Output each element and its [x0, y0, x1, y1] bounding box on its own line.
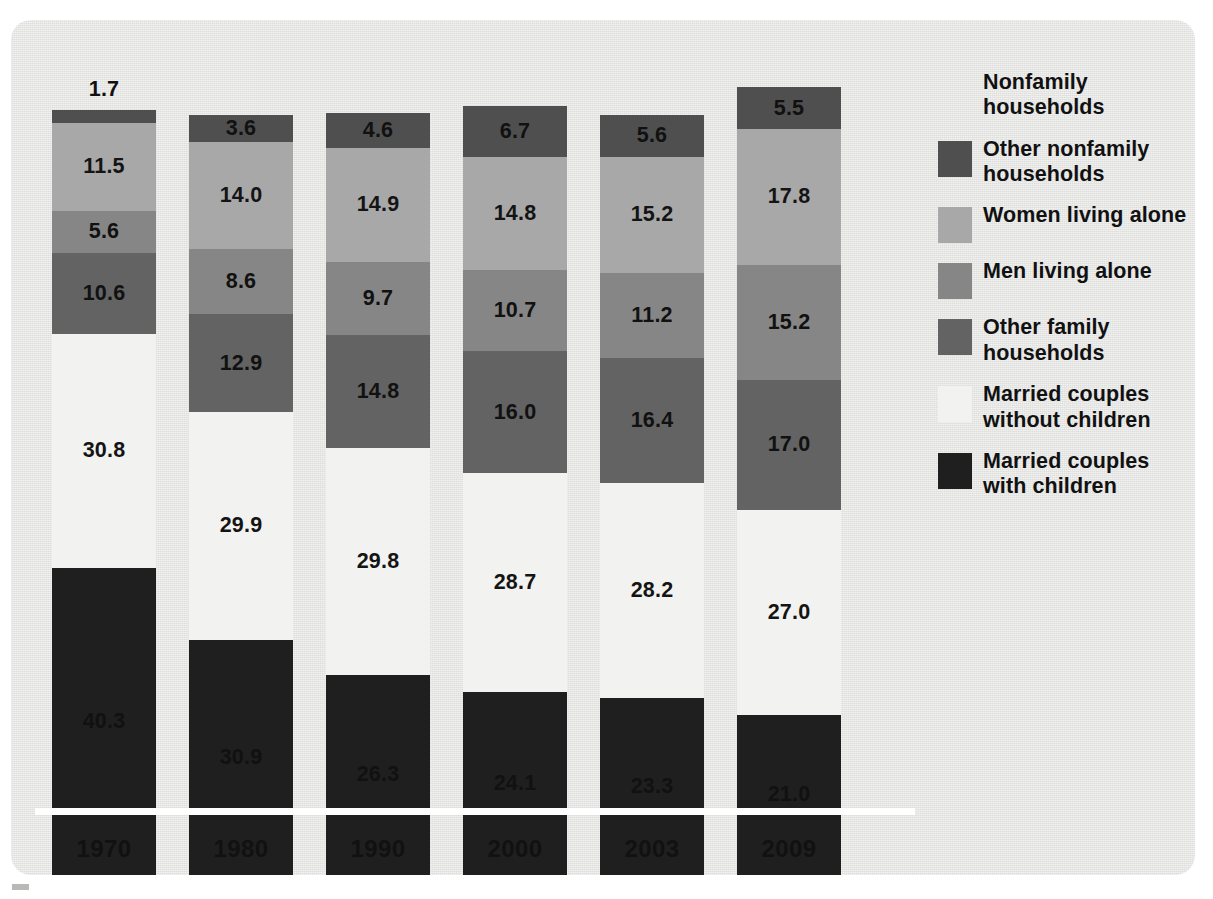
bar-segment-value: 21.0: [768, 784, 811, 806]
bar-segment[interactable]: 14.8: [463, 157, 567, 270]
bar-segment[interactable]: 17.0: [737, 380, 841, 509]
bar-segment[interactable]: 14.0: [189, 142, 293, 249]
x-axis-tick-2000: 2000: [463, 835, 567, 863]
bar-segment-value: 23.3: [631, 776, 674, 798]
legend-item[interactable]: Married couples without children: [938, 382, 1188, 433]
legend-item-label: Other nonfamily households: [983, 137, 1188, 188]
bar-segment[interactable]: 17.8: [737, 129, 841, 264]
bar-segment[interactable]: 28.7: [463, 473, 567, 691]
bar-stack-1980[interactable]: 3.614.08.612.929.930.9: [189, 115, 293, 875]
bar-segment-value: 6.7: [500, 121, 531, 143]
legend-item[interactable]: Men living alone: [938, 259, 1188, 299]
bar-segment[interactable]: 3.6: [189, 115, 293, 142]
bar-segment[interactable]: 9.7: [326, 262, 430, 336]
legend-item[interactable]: Married couples with children: [938, 449, 1188, 500]
bar-segment-value: 5.6: [637, 125, 668, 147]
bar-segment-value: 40.3: [83, 711, 126, 733]
bar-segment-value: 5.5: [774, 98, 805, 120]
legend-item-label: Nonfamily households: [983, 70, 1188, 121]
legend-swatch-icon: [938, 386, 972, 422]
bar-segment-value: 4.6: [363, 120, 394, 142]
legend-item[interactable]: Nonfamily households: [938, 70, 1188, 121]
bar-segment[interactable]: 29.9: [189, 412, 293, 640]
bar-segment-value: 30.8: [83, 440, 126, 462]
bar-segment[interactable]: 11.5: [52, 123, 156, 211]
legend-item-label: Married couples with children: [983, 449, 1188, 500]
bar-segment-value: 9.7: [363, 288, 394, 310]
bar-segment-value: 17.8: [768, 186, 811, 208]
corner-mark: [12, 884, 29, 890]
legend-item[interactable]: Women living alone: [938, 203, 1188, 243]
bar-segment[interactable]: 5.6: [600, 115, 704, 158]
bar-stack-2003[interactable]: 5.615.211.216.428.223.3: [600, 115, 704, 875]
legend-item-label: Men living alone: [983, 259, 1152, 284]
bar-segment-value: 29.9: [220, 515, 263, 537]
bar-segment[interactable]: 27.0: [737, 510, 841, 715]
bar-segment[interactable]: 15.2: [737, 265, 841, 381]
bar-segment[interactable]: 10.7: [463, 270, 567, 351]
bar-segment[interactable]: 1.7: [52, 110, 156, 123]
bar-segment-value: 16.0: [494, 402, 537, 424]
bar-segment-value: 1.7: [89, 79, 120, 101]
plot-area: 1.711.55.610.630.840.33.614.08.612.929.9…: [11, 20, 941, 875]
legend-swatch-icon: [938, 141, 972, 177]
bar-stack-1970[interactable]: 1.711.55.610.630.840.3: [52, 110, 156, 875]
bar-segment-value: 27.0: [768, 602, 811, 624]
bar-segment[interactable]: 10.6: [52, 253, 156, 334]
bar-segment-value: 28.7: [494, 572, 537, 594]
bar-segment-value: 14.8: [494, 203, 537, 225]
bar-segment[interactable]: 28.2: [600, 483, 704, 698]
x-axis-tick-1990: 1990: [326, 835, 430, 863]
bar-segment[interactable]: 15.2: [600, 157, 704, 273]
bar-segment-value: 8.6: [226, 271, 257, 293]
figure-panel: 1.711.55.610.630.840.33.614.08.612.929.9…: [11, 20, 1195, 875]
legend-item[interactable]: Other family households: [938, 315, 1188, 366]
x-axis-tick-2009: 2009: [737, 835, 841, 863]
x-axis-tick-1980: 1980: [189, 835, 293, 863]
bar-stack-1990[interactable]: 4.614.99.714.829.826.3: [326, 113, 430, 875]
x-axis-tick-1970: 1970: [52, 835, 156, 863]
bar-segment-value: 14.8: [357, 381, 400, 403]
legend-swatch-icon: [938, 453, 972, 489]
legend-item-label: Women living alone: [983, 203, 1186, 228]
legend-swatch-icon: [938, 74, 972, 110]
bar-segment-value: 12.9: [220, 353, 263, 375]
legend-swatch-icon: [938, 207, 972, 243]
bar-segment[interactable]: 5.6: [52, 211, 156, 254]
legend-item[interactable]: Other nonfamily households: [938, 137, 1188, 188]
bar-segment-value: 10.6: [83, 283, 126, 305]
bar-segment[interactable]: 16.4: [600, 358, 704, 483]
legend-item-label: Other family households: [983, 315, 1188, 366]
x-axis-tick-2003: 2003: [600, 835, 704, 863]
bar-segment[interactable]: 5.5: [737, 87, 841, 129]
bar-segment-value: 26.3: [357, 764, 400, 786]
bar-segment-value: 10.7: [494, 300, 537, 322]
bar-segment[interactable]: 4.6: [326, 113, 430, 148]
bar-segment-value: 15.2: [768, 312, 811, 334]
bar-segment[interactable]: 6.7: [463, 106, 567, 157]
axis-baseline: [35, 808, 915, 815]
bar-segment[interactable]: 8.6: [189, 249, 293, 314]
x-axis: 197019801990200020032009: [11, 817, 941, 863]
legend-item-label: Married couples without children: [983, 382, 1188, 433]
bar-segment-value: 14.9: [357, 194, 400, 216]
bar-segment[interactable]: 12.9: [189, 314, 293, 412]
bar-segment-value: 28.2: [631, 580, 674, 602]
bar-segment-value: 17.0: [768, 434, 811, 456]
bar-segment[interactable]: 14.9: [326, 148, 430, 261]
bar-segment-value: 5.6: [89, 221, 120, 243]
bar-segment-value: 14.0: [220, 185, 263, 207]
bar-segment-value: 29.8: [357, 551, 400, 573]
bar-segment-value: 15.2: [631, 204, 674, 226]
bar-segment[interactable]: 14.8: [326, 335, 430, 448]
bar-segment[interactable]: 11.2: [600, 273, 704, 358]
bar-segment[interactable]: 16.0: [463, 351, 567, 473]
bar-stack-2009[interactable]: 5.517.815.217.027.021.0: [737, 87, 841, 875]
legend-swatch-icon: [938, 263, 972, 299]
bar-segment-value: 11.2: [631, 305, 672, 327]
bar-segment[interactable]: 30.8: [52, 334, 156, 568]
bar-segment-value: 16.4: [631, 410, 674, 432]
bar-stack-2000[interactable]: 6.714.810.716.028.724.1: [463, 106, 567, 875]
bar-segment-value: 24.1: [494, 773, 537, 795]
bar-segment[interactable]: 29.8: [326, 448, 430, 675]
